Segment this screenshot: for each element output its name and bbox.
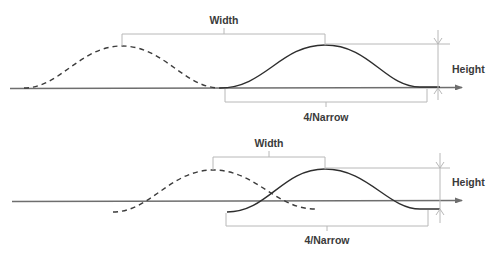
width-bracket <box>213 157 325 170</box>
current-pulse-curve <box>220 45 440 88</box>
width-bracket <box>122 34 325 46</box>
narrow-bracket <box>226 210 428 226</box>
narrow-label: 4/Narrow <box>305 234 351 246</box>
time-axis-arrow <box>10 88 462 89</box>
width-label: Width <box>209 14 238 26</box>
narrow-bracket <box>225 89 427 102</box>
height-label: Height <box>452 63 485 75</box>
previous-pulse-curve <box>113 170 315 212</box>
height-label: Height <box>452 176 485 188</box>
narrow-label: 4/Narrow <box>304 111 350 123</box>
width-label: Width <box>254 137 283 149</box>
bottom-diagram: Width Height 4/Narrow <box>12 137 485 246</box>
pulse-width-diagram: Width Height 4/Narrow Width Height 4/N <box>0 0 490 254</box>
top-diagram: Width Height 4/Narrow <box>10 14 485 123</box>
current-pulse-curve <box>227 169 440 212</box>
previous-pulse-curve <box>24 46 220 88</box>
